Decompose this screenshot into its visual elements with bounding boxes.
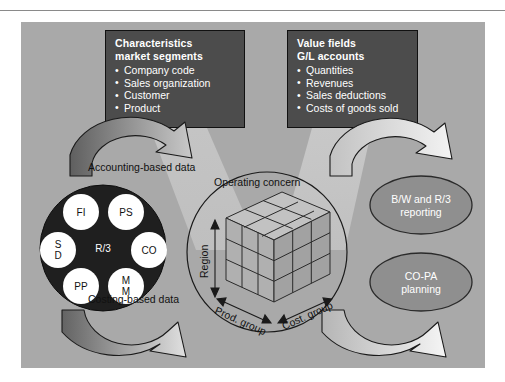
cube-axis-region-label: Region [198, 245, 210, 278]
costing-based-data-label: Costing-based data [88, 293, 179, 305]
copa-planning-label-line2: planning [401, 283, 441, 295]
r3-module-mm-label-line1: M [122, 275, 130, 286]
figure-canvas: Characteristics market segments Company … [0, 0, 505, 382]
r3-module-pp-label: PP [74, 281, 88, 292]
r3-module-ps-label: PS [119, 207, 133, 218]
r3-module-sd-label-line1: S [55, 239, 62, 250]
operating-concern-label: Operating concern [214, 176, 300, 188]
shapes-layer: R/3 FI PS S D CO PP M M [0, 0, 505, 382]
bw-reporting-label-line2: reporting [400, 206, 442, 218]
bw-reporting-ellipse[interactable] [370, 176, 472, 234]
copa-planning-label-line1: CO-PA [405, 270, 437, 282]
reporting-flow-arrow [330, 118, 452, 176]
r3-module-co-label: CO [142, 245, 157, 256]
costing-flow-arrow [62, 310, 186, 357]
r3-center-label: R/3 [95, 243, 111, 254]
accounting-based-data-label: Accounting-based data [88, 161, 195, 173]
planning-flow-arrow [322, 310, 446, 357]
operating-concern-cube [226, 192, 330, 302]
cube-axis-prod-group-label: Prod. group [213, 304, 268, 337]
r3-module-sd-label-line2: D [54, 250, 61, 261]
copa-planning-ellipse[interactable] [370, 253, 472, 311]
bw-reporting-label-line1: B/W and R/3 [391, 193, 451, 205]
r3-module-fi-label: FI [77, 207, 86, 218]
